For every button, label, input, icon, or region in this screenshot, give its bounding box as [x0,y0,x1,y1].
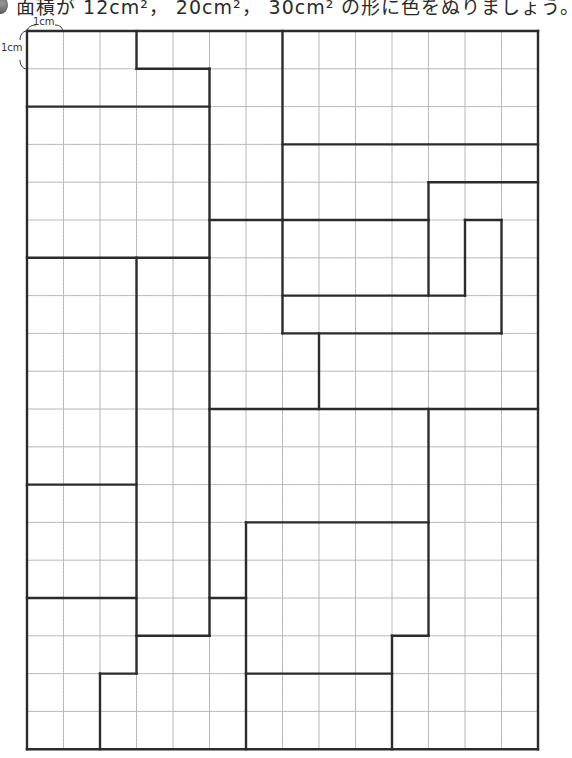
grid-figure [0,0,540,758]
